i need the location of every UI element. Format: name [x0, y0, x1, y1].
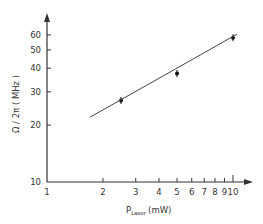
- y-tick-label: 60: [30, 30, 41, 40]
- x-tick-label: 2: [100, 187, 105, 197]
- y-tick-label: 10: [30, 177, 41, 187]
- chart: 12345678910 102030405060 PLaser(mW) Ω / …: [0, 0, 263, 224]
- plot-series: [90, 34, 237, 117]
- y-tick-label: 40: [30, 63, 41, 73]
- x-tick-label: 5: [174, 187, 179, 197]
- data-point: [175, 70, 179, 77]
- x-tick-label: 10: [228, 187, 239, 197]
- y-tick-label: 20: [30, 120, 41, 130]
- x-axis-ticks: 12345678910: [44, 175, 238, 197]
- y-axis-arrow-icon: [44, 13, 50, 22]
- x-tick-label: 4: [156, 187, 161, 197]
- x-tick-label: 9: [222, 187, 227, 197]
- fit-line: [90, 34, 237, 117]
- x-tick-label: 1: [44, 187, 49, 197]
- y-tick-label: 50: [30, 45, 41, 55]
- x-axis-title-sub: Laser: [131, 210, 147, 216]
- x-axis-title: PLaser(mW): [126, 205, 171, 216]
- x-tick-label: 8: [212, 187, 217, 197]
- x-tick-label: 6: [189, 187, 194, 197]
- x-tick-label: 3: [133, 187, 138, 197]
- x-tick-label: 7: [201, 187, 206, 197]
- x-axis-arrow-icon: [244, 179, 253, 185]
- x-axis-title-unit: (mW): [148, 205, 171, 215]
- axes: [44, 13, 253, 185]
- y-axis-title: Ω / 2π ( MHz ): [11, 75, 21, 133]
- y-tick-label: 30: [30, 87, 41, 97]
- y-axis-ticks: 102030405060: [30, 30, 51, 187]
